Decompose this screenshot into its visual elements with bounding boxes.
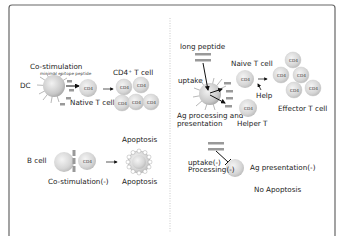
svg-text:CD4: CD4 [277,73,286,78]
no-apoptosis-label: No Apoptosis [254,185,301,194]
apoptosis-title: Apoptosis [122,135,157,144]
right-bottom-section: uptake(-) Processing(-) Ag presentation(… [188,142,316,194]
cd4-t-cell-label: CD4⁺ T cell [113,68,153,77]
effector-t-cell-cluster-icon: CD4 CD4 CD4 CD4 CD4 [273,52,321,98]
dendritic-cell-icon [37,72,67,103]
left-bottom-section: B cell CD4 Co-stimulation(-) Apoptosis A… [27,135,157,186]
long-peptide-icon [195,53,211,62]
naive-t-cell-icon: CD4 [236,70,254,88]
outer-frame [9,5,335,236]
svg-text:CD4: CD4 [137,83,146,88]
left-top-section: Co-stimulation minimal epitope peptide D… [20,62,159,111]
svg-text:CD4: CD4 [290,88,299,93]
helper-t-cell-icon: CD4 [239,99,257,117]
svg-text:CD4: CD4 [83,159,92,164]
long-peptide-label: long peptide [180,42,226,51]
svg-text:CD4: CD4 [132,100,141,105]
apoptotic-cell-icon [126,149,152,175]
svg-text:CD4: CD4 [147,100,156,105]
svg-text:CD4: CD4 [84,86,93,91]
uptake-label: uptake [178,76,203,85]
naive-t-cell-label: Native T cell [70,98,115,107]
b-cell-label: B cell [27,156,47,165]
svg-text:CD4: CD4 [309,86,318,91]
apoptosis-label: Apoptosis [122,177,157,186]
b-cell-icon [54,152,74,172]
svg-text:CD4: CD4 [120,85,129,90]
svg-text:CD4: CD4 [118,101,127,106]
helper-t-label: Helper T [237,119,268,128]
naive-t-cell-icon: CD4 [79,79,97,97]
svg-text:CD4: CD4 [297,73,306,78]
presentation-label: presentation [177,119,223,128]
blocked-costim-bars-icon [73,150,76,172]
processing-negative-label: Processing(-) [188,165,235,174]
costim-negative-label: Co-stimulation(-) [48,177,109,186]
svg-text:CD4: CD4 [244,106,253,111]
costim-label: Co-stimulation [30,62,82,71]
diagram-canvas: Co-stimulation minimal epitope peptide D… [0,0,341,236]
peptide-mhc-icon [224,82,233,108]
naive-t-cell-label: Naive T cell [231,59,273,68]
help-arrow-icon [258,84,261,90]
effector-t-cell-label: Effector T cell [278,104,327,113]
svg-text:CD4: CD4 [241,77,250,82]
right-top-section: long peptide uptake [177,42,327,128]
cd4-t-cell-cluster-icon: CD4 CD4 CD4 CD4 CD4 [114,77,159,111]
help-label: Help [256,91,273,100]
dc-label: DC [20,81,31,90]
t-cell-icon: CD4 [78,152,96,170]
long-peptide-icon [208,142,224,151]
svg-text:CD4: CD4 [289,58,298,63]
ag-presentation-negative-label: Ag presentation(-) [250,163,316,172]
